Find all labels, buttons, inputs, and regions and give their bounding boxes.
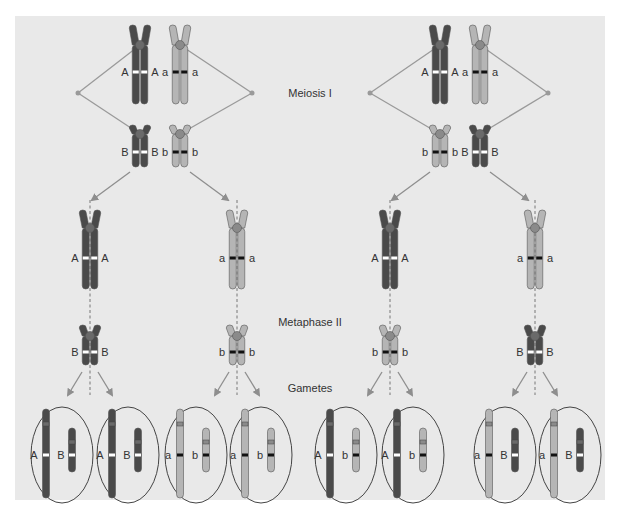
allele-label-A: A xyxy=(421,66,429,78)
allele-label-b: b xyxy=(402,346,408,358)
allele-label-a: a xyxy=(249,252,256,264)
spindle-pole xyxy=(546,91,551,96)
allele-label-B: B xyxy=(546,346,553,358)
diagram-canvas: AAaaBBbbAAaabbBBAABBaabbAAbbaaBBABABabab… xyxy=(0,0,621,518)
stage-label-meiosis-1: Meiosis I xyxy=(288,87,331,99)
arrow xyxy=(490,172,528,200)
centromere xyxy=(327,422,333,426)
allele-label-B: B xyxy=(57,449,64,461)
allele-band xyxy=(551,454,557,457)
spindle-pole xyxy=(250,91,255,96)
chromosome-body xyxy=(420,428,427,472)
chromosome-body xyxy=(69,428,76,472)
allele-label-b: b xyxy=(422,146,428,158)
spindle-pole xyxy=(76,91,81,96)
allele-band xyxy=(238,257,244,260)
gamete-chromosome xyxy=(577,428,584,472)
chromosome-body xyxy=(353,428,360,472)
centromere xyxy=(86,332,95,341)
allele-label-a: a xyxy=(462,66,469,78)
chromosome-body xyxy=(577,428,584,472)
allele-band xyxy=(391,257,397,260)
allele-band xyxy=(238,351,244,354)
allele-label-B: B xyxy=(101,346,108,358)
allele-band xyxy=(141,151,147,154)
chromatid-arm xyxy=(132,45,139,104)
arrow xyxy=(98,372,112,395)
centromere xyxy=(531,332,540,341)
allele-label-A: A xyxy=(451,66,459,78)
centromere xyxy=(420,440,426,444)
centromere xyxy=(486,422,492,426)
chromatid-arm xyxy=(441,45,448,104)
allele-label-A: A xyxy=(96,449,104,461)
allele-band xyxy=(133,151,139,154)
allele-label-A: A xyxy=(101,252,109,264)
allele-band xyxy=(577,454,583,457)
gamete-chromosome xyxy=(512,428,519,472)
arrow xyxy=(398,372,412,395)
arrow xyxy=(68,372,82,395)
replicated-chromosome xyxy=(129,25,151,104)
allele-band xyxy=(528,257,534,260)
allele-band xyxy=(173,151,179,154)
chromatid-arm xyxy=(432,45,439,104)
allele-label-b: b xyxy=(219,346,225,358)
spindle-fiber xyxy=(370,45,440,93)
gamete-chromosome xyxy=(394,409,401,498)
allele-band xyxy=(383,257,389,260)
allele-label-B: B xyxy=(461,146,468,158)
allele-band xyxy=(481,151,487,154)
allele-band xyxy=(230,351,236,354)
allele-band xyxy=(43,454,49,457)
allele-band xyxy=(268,454,274,457)
allele-band xyxy=(383,351,389,354)
labels: Meiosis I Metaphase II Gametes xyxy=(278,87,342,394)
centromere xyxy=(43,422,49,426)
centromere xyxy=(135,440,141,444)
arrow xyxy=(215,372,229,395)
allele-label-b: b xyxy=(249,346,255,358)
chromatid-arm xyxy=(181,45,188,104)
allele-band xyxy=(173,71,179,74)
arrow xyxy=(190,172,228,200)
allele-label-B: B xyxy=(123,449,130,461)
allele-label-a: a xyxy=(539,449,546,461)
centromere xyxy=(436,130,445,139)
allele-band xyxy=(486,454,492,457)
chromatid-arm xyxy=(172,45,179,104)
allele-band xyxy=(473,151,479,154)
meiosis-diagram: AAaaBBbbAAaabbBBAABBaabbAAbbaaBBABABabab… xyxy=(0,0,621,518)
allele-band xyxy=(91,257,97,260)
centromere xyxy=(203,440,209,444)
arrow xyxy=(543,372,557,395)
centromere xyxy=(136,130,145,139)
allele-band xyxy=(181,151,187,154)
centromere xyxy=(512,440,518,444)
allele-band xyxy=(536,257,542,260)
allele-label-B: B xyxy=(491,146,498,158)
allele-band xyxy=(536,351,542,354)
allele-band xyxy=(177,454,183,457)
allele-label-B: B xyxy=(516,346,523,358)
replicated-chromosome xyxy=(429,125,451,167)
centromere xyxy=(136,41,145,50)
allele-label-B: B xyxy=(151,146,158,158)
allele-label-A: A xyxy=(381,449,389,461)
chromosome-body xyxy=(268,428,275,472)
centromere xyxy=(476,41,485,50)
centromere xyxy=(436,41,445,50)
allele-band xyxy=(181,71,187,74)
gamete-chromosome xyxy=(268,428,275,472)
gamete-chromosome xyxy=(486,409,493,498)
allele-label-B: B xyxy=(565,449,572,461)
centromere xyxy=(86,224,95,233)
allele-label-a: a xyxy=(162,66,169,78)
allele-label-a: a xyxy=(547,252,554,264)
gamete-chromosome xyxy=(327,409,334,498)
centromere xyxy=(109,422,115,426)
allele-label-A: A xyxy=(151,66,159,78)
replicated-chromosome xyxy=(169,125,191,167)
allele-band xyxy=(433,151,439,154)
centromere xyxy=(242,422,248,426)
